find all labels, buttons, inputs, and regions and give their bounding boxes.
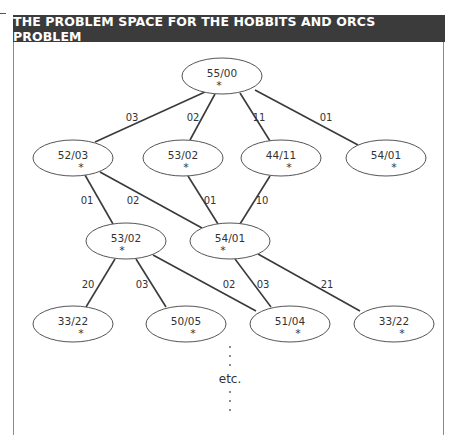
state-node: 54/01* — [190, 223, 270, 259]
edge-line — [255, 90, 358, 145]
node-label: 54/01 — [215, 232, 245, 244]
etc-label: etc. — [219, 372, 242, 386]
ellipsis-dot — [229, 364, 231, 366]
edge-label: 02 — [223, 279, 236, 290]
state-node: 44/11* — [241, 140, 321, 176]
ellipsis-dot — [229, 355, 231, 357]
edge-label: 02 — [127, 195, 140, 206]
edge-label: 01 — [204, 195, 217, 206]
state-node: 52/03* — [33, 140, 113, 176]
ellipsis-dot — [229, 391, 231, 393]
edge-label: 21 — [321, 279, 334, 290]
asterisk-icon: * — [78, 161, 84, 174]
asterisk-icon: * — [220, 244, 226, 257]
node-label: 52/03 — [58, 149, 88, 161]
asterisk-icon: * — [183, 161, 189, 174]
asterisk-icon: * — [119, 244, 125, 257]
edge-line — [153, 255, 256, 311]
asterisk-icon: * — [190, 327, 196, 340]
ellipsis-dot — [229, 346, 231, 348]
ellipsis-dot — [229, 400, 231, 402]
asterisk-icon: * — [391, 161, 397, 174]
state-node: 51/04* — [250, 306, 330, 342]
edge-label: 03 — [126, 112, 139, 123]
node-label: 55/00 — [207, 67, 237, 79]
ellipsis-dot — [229, 409, 231, 411]
edge-line — [258, 254, 360, 311]
state-node: 54/01* — [346, 140, 426, 176]
asterisk-icon: * — [295, 327, 301, 340]
node-label: 50/05 — [171, 315, 201, 327]
node-label: 51/04 — [275, 315, 306, 327]
node-label: 53/02 — [168, 149, 198, 161]
edge-label: 20 — [82, 279, 95, 290]
edges-group: 03021101010201102003020321 — [81, 90, 360, 311]
edge-label: 03 — [136, 279, 149, 290]
node-label: 33/22 — [379, 315, 409, 327]
asterisk-icon: * — [399, 327, 405, 340]
asterisk-icon: * — [78, 327, 84, 340]
state-node: 55/00* — [182, 58, 262, 94]
state-node: 53/02* — [86, 223, 166, 259]
edge-label: 03 — [257, 279, 270, 290]
node-label: 54/01 — [371, 149, 401, 161]
asterisk-icon: * — [286, 161, 292, 174]
continuation-marker: etc. — [219, 346, 242, 411]
edge-label: 02 — [187, 112, 200, 123]
edge-line — [100, 172, 202, 228]
edge-label: 01 — [320, 112, 333, 123]
node-label: 53/02 — [111, 232, 141, 244]
edge-label: 11 — [253, 112, 266, 123]
edge-label: 01 — [81, 195, 94, 206]
state-node: 53/02* — [143, 140, 223, 176]
state-node: 33/22* — [33, 306, 113, 342]
asterisk-icon: * — [216, 79, 222, 92]
node-label: 44/11 — [266, 149, 296, 161]
node-label: 33/22 — [58, 315, 88, 327]
edge-label: 10 — [256, 195, 269, 206]
state-node: 50/05* — [146, 306, 226, 342]
state-node: 33/22* — [354, 306, 434, 342]
